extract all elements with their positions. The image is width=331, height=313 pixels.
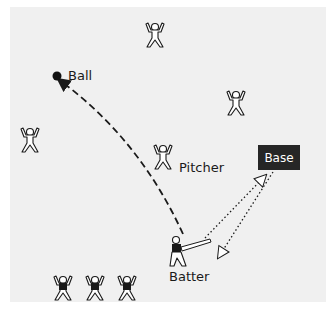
fielder-figure-icon (227, 91, 245, 115)
pitcher-label: Pitcher (179, 160, 224, 175)
ball-icon (53, 72, 62, 81)
run-to-base-arrow (205, 175, 266, 238)
waiting-batter-figure-icon (118, 276, 136, 300)
waiting-batter-figure-icon (86, 276, 104, 300)
fielder-figure-icon (146, 23, 164, 47)
run-back-arrow (218, 172, 273, 258)
waiting-batter-figure-icon (54, 276, 72, 300)
base-label: Base (264, 151, 293, 165)
pitcher-figure-icon (154, 145, 172, 169)
base-box: Base (258, 145, 300, 170)
batter-label: Batter (169, 269, 209, 284)
fielder-figure-icon (21, 128, 39, 152)
ball-label: Ball (68, 68, 92, 83)
batter-figure-icon (170, 237, 211, 267)
